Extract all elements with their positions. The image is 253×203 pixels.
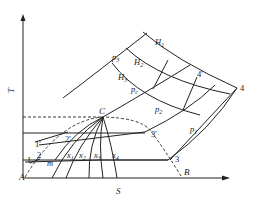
x3-label: x3 bbox=[93, 150, 101, 161]
point-2p-label: 2' bbox=[65, 134, 71, 144]
x1-label: x1 bbox=[66, 150, 74, 161]
point-1p-label: 1' bbox=[35, 139, 41, 149]
point-a-label: A bbox=[18, 172, 25, 182]
point-3p-label: 3' bbox=[151, 129, 157, 139]
isobar-p2-label: p2 bbox=[154, 104, 162, 115]
isobar-p3-label: p3 bbox=[111, 52, 119, 63]
axes bbox=[21, 14, 231, 181]
grid-line bbox=[170, 88, 237, 160]
isenthalps bbox=[112, 32, 237, 115]
quality-x4 bbox=[103, 117, 117, 178]
isobar-pc-label: pc bbox=[130, 84, 138, 95]
point-2-label: 2 bbox=[37, 150, 41, 160]
x4-label: x4 bbox=[111, 150, 119, 161]
quality-x3 bbox=[101, 117, 104, 178]
isobar-p1-label: p1 bbox=[189, 124, 197, 135]
point-1-label: 1 bbox=[27, 155, 31, 165]
isenthalp-h3-label: H3 bbox=[117, 72, 127, 83]
s-axis-arrow-icon bbox=[222, 176, 230, 181]
point-c-label: C bbox=[99, 106, 106, 116]
isenthalp-h2-label: H2 bbox=[133, 57, 143, 68]
quality-lines bbox=[52, 117, 117, 178]
x2-label: x2 bbox=[78, 150, 86, 161]
isobar-p1 bbox=[25, 88, 237, 162]
point-b-label: B bbox=[184, 167, 190, 177]
isenthalp-h2 bbox=[126, 48, 230, 94]
t-axis-arrow-icon bbox=[21, 14, 26, 21]
ts-diagram: T S C A B 1 1' 2 2' 3 3' 4 4' m p3 pc p2… bbox=[0, 0, 253, 203]
point-4-label: 4 bbox=[240, 83, 245, 93]
m-label: m bbox=[47, 158, 53, 168]
t-axis-label: T bbox=[6, 87, 16, 93]
point-4p-label: 4' bbox=[197, 69, 203, 79]
s-axis-label: S bbox=[116, 186, 121, 196]
quality-x1 bbox=[66, 117, 103, 178]
point-3-label: 3 bbox=[175, 154, 179, 164]
isenthalp-h1-label: H1 bbox=[154, 37, 164, 48]
